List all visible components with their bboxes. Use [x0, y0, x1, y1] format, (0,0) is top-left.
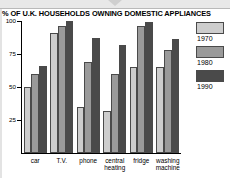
x-axis-label-line2: heating — [98, 164, 133, 171]
x-axis-label-washing: washingmachine — [151, 157, 186, 171]
bar-central-heating-1990 — [119, 45, 127, 153]
bar-car-1970 — [24, 87, 32, 153]
legend-label-1990: 1990 — [197, 82, 230, 91]
bar-central-heating-1980 — [111, 74, 119, 153]
legend-label-1980: 1980 — [197, 58, 230, 67]
bar-washing-machine-1980 — [164, 50, 172, 153]
drag-handle-icon[interactable] — [108, 0, 122, 6]
bar-t-v--1980 — [58, 26, 66, 153]
legend-label-1970: 1970 — [197, 34, 230, 43]
bar-washing-machine-1990 — [172, 39, 180, 153]
x-axis-label-line1: washing — [151, 157, 186, 164]
x-axis-label-line2: machine — [151, 164, 186, 171]
y-axis-tick-label: 100 — [0, 18, 16, 24]
bars-area — [22, 21, 181, 153]
legend-entry-1980[interactable]: 1980 — [196, 46, 230, 67]
bar-phone-1990 — [92, 38, 100, 153]
x-axis-line — [21, 153, 181, 154]
y-axis-tick-label: 75 — [0, 51, 16, 57]
legend-entry-1970[interactable]: 1970 — [196, 22, 230, 43]
chart-legend: 197019801990 — [196, 22, 230, 94]
bar-washing-machine-1970 — [156, 67, 164, 153]
bar-phone-1980 — [84, 62, 92, 153]
bar-car-1980 — [31, 74, 39, 153]
bar-t-v--1970 — [50, 33, 58, 153]
legend-swatch-1970 — [196, 22, 224, 34]
bar-car-1990 — [39, 66, 47, 153]
chart-title: % OF U.K. HOUSEHOLDS OWNING DOMESTIC APP… — [2, 9, 211, 18]
window-top-strip — [0, 0, 230, 9]
legend-swatch-1990 — [196, 70, 224, 82]
bar-fridge-1990 — [145, 22, 153, 153]
y-axis-tick-label: 50 — [0, 84, 16, 90]
legend-entry-1990[interactable]: 1990 — [196, 70, 230, 91]
bar-fridge-1970 — [130, 67, 138, 153]
bar-fridge-1980 — [137, 26, 145, 153]
legend-swatch-1980 — [196, 46, 224, 58]
bar-phone-1970 — [77, 107, 85, 153]
y-axis-tick-label: 25 — [0, 117, 16, 123]
bar-t-v--1990 — [66, 21, 74, 153]
bar-central-heating-1970 — [103, 111, 111, 153]
